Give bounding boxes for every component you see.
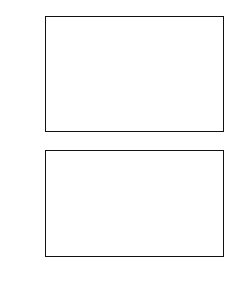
figure-svg: [0, 0, 236, 296]
figure-background: [0, 0, 236, 296]
figure-container: [0, 0, 236, 296]
